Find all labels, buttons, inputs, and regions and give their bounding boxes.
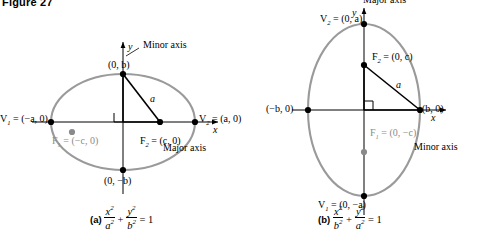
right-angle-marker	[114, 113, 123, 122]
vertex-right-point	[192, 119, 198, 125]
x-axis-label: x	[431, 113, 435, 123]
panel-b-plus: +	[346, 214, 352, 225]
co-vertex-bottom-label: (0, −b)	[104, 176, 131, 186]
focus-top-label: F2 = (0, c)	[372, 52, 413, 65]
focus-right-coords: = (c, 0)	[149, 135, 181, 146]
focus-bottom-label: F1 = (0, −c)	[370, 128, 416, 141]
panel-a-term2: y2 b2	[126, 204, 137, 230]
y-axis-arrow	[121, 42, 126, 48]
panel-a-term1: x2 a2	[104, 204, 115, 230]
panel-a-rhs: = 1	[139, 214, 153, 225]
focus-left-coords: = (−c, 0)	[61, 135, 98, 146]
vertex-top-coords: = (0, a)	[331, 13, 363, 24]
co-vertex-top-label: (0, b)	[108, 60, 130, 70]
co-vertex-bottom-point	[120, 167, 126, 173]
vertex-left-coords: = (−a, 0)	[11, 113, 48, 124]
panel-a-caption: (a) x2 a2 + y2 b2 = 1	[90, 204, 153, 230]
triangle-hypotenuse-a	[364, 65, 420, 110]
co-vertex-left-label: (−b, 0)	[266, 104, 293, 114]
panel-b-term1: x2 b2	[333, 204, 344, 230]
right-angle-marker	[364, 101, 373, 110]
minor-axis-label: Minor axis	[414, 142, 458, 152]
panel-b-rhs: = 1	[368, 214, 382, 225]
minor-axis-label: Minor axis	[143, 40, 187, 50]
focus-bottom-coords: = (0, −c)	[379, 127, 416, 138]
panel-b-tag: (b)	[318, 214, 330, 225]
major-axis-label: Major axis	[363, 0, 406, 5]
vertex-left-label: V1 = (−a, 0)	[0, 114, 48, 127]
focus-left-label: F1 = (−c, 0)	[52, 136, 98, 149]
co-vertex-top-point	[120, 71, 126, 77]
panel-b-caption: (b) x2 b2 + y2 a2 = 1	[318, 204, 382, 230]
semi-major-length-label: a	[150, 94, 155, 104]
vertex-right-label: V2 = (a, 0)	[199, 114, 241, 127]
panel-b-vertical-ellipse: Major axis Minor axis x y V2 = (0, a) V1…	[246, 0, 480, 237]
vertex-top-label: V2 = (0, a)	[320, 14, 362, 27]
focus-bottom-point	[361, 149, 367, 155]
panel-b-term2: y2 a2	[355, 204, 366, 230]
y-axis-label: y	[128, 42, 132, 52]
vertex-right-coords: = (a, 0)	[210, 113, 242, 124]
co-vertex-right-label: (b, 0)	[422, 104, 444, 114]
focus-right-label: F2 = (c, 0)	[140, 136, 181, 149]
panel-a-tag: (a)	[90, 214, 102, 225]
panel-a-horizontal-ellipse: Minor axis Major axis x y V1 = (−a, 0) V…	[0, 0, 246, 237]
focus-top-point	[361, 62, 367, 68]
co-vertex-left-point	[305, 107, 311, 113]
focus-top-coords: = (0, c)	[381, 51, 413, 62]
panel-a-plus: +	[118, 214, 124, 225]
semi-major-length-label: a	[396, 80, 401, 90]
focus-right-point	[157, 119, 163, 125]
vertex-left-point	[48, 119, 54, 125]
y-axis-arrow	[362, 8, 367, 14]
